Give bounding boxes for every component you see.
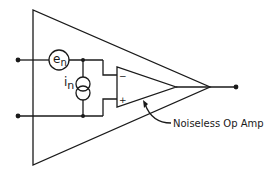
current-noise-label: in [64, 75, 74, 92]
bottom-input-terminal [16, 114, 21, 119]
noise-model-diagram: en in − + Noiseless Op Amp [0, 0, 279, 176]
diagram-svg: en in − + Noiseless Op Amp [0, 0, 279, 176]
current-noise-source-lower-ring [76, 86, 90, 100]
inverting-input-wire [103, 60, 117, 75]
top-input-terminal [16, 58, 21, 63]
bottom-junction-dot [81, 114, 85, 118]
inverting-input-sign: − [119, 71, 127, 81]
top-junction-dot [81, 58, 85, 62]
noninverting-input-sign: + [119, 95, 127, 105]
output-terminal [234, 85, 239, 90]
noninverting-input-wire [103, 99, 117, 116]
voltage-noise-label: en [53, 52, 67, 68]
noiseless-op-amp-label: Noiseless Op Amp [173, 118, 264, 129]
